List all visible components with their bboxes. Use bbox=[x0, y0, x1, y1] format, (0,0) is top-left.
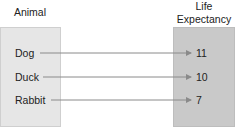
animal-rabbit: Rabbit bbox=[15, 94, 45, 106]
animal-duck: Duck bbox=[15, 71, 39, 83]
mapping-arrows bbox=[0, 0, 247, 136]
value-rabbit: 7 bbox=[196, 94, 202, 106]
value-duck: 10 bbox=[196, 71, 208, 83]
animal-dog: Dog bbox=[15, 47, 34, 59]
value-dog: 11 bbox=[196, 47, 207, 59]
